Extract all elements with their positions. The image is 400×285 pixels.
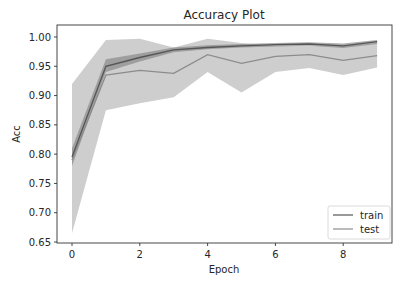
y-tick-label: 0.80: [29, 149, 51, 160]
accuracy-chart: Accuracy Plot 0.650.700.750.800.850.900.…: [0, 0, 400, 285]
y-tick-label: 0.70: [29, 207, 51, 218]
x-axis-ticks: 02468: [69, 243, 347, 260]
y-axis-ticks: 0.650.700.750.800.850.900.951.00: [29, 32, 57, 248]
confidence-bands: [72, 39, 377, 233]
chart-title: Accuracy Plot: [183, 8, 265, 22]
y-tick-label: 0.90: [29, 90, 51, 101]
x-tick-label: 6: [272, 249, 278, 260]
y-tick-label: 0.85: [29, 119, 51, 130]
legend: train test: [328, 206, 390, 239]
y-tick-label: 0.95: [29, 61, 51, 72]
x-tick-label: 0: [69, 249, 75, 260]
y-tick-label: 0.75: [29, 178, 51, 189]
legend-test-label: test: [360, 224, 379, 235]
legend-train-label: train: [360, 210, 383, 221]
x-tick-label: 2: [137, 249, 143, 260]
y-axis-label: Acc: [11, 125, 22, 143]
x-tick-label: 4: [204, 249, 210, 260]
x-axis-label: Epoch: [209, 264, 240, 275]
x-tick-label: 8: [340, 249, 346, 260]
y-tick-label: 0.65: [29, 237, 51, 248]
y-tick-label: 1.00: [29, 32, 51, 43]
